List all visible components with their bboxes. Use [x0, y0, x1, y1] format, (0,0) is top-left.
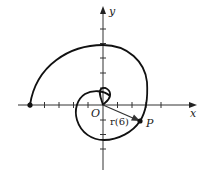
- curve-endpoint-dot: [27, 102, 32, 107]
- y-axis-label: y: [108, 5, 116, 18]
- point-p-label: P: [145, 117, 154, 130]
- x-axis: x: [18, 102, 197, 120]
- parametric-curve-diagram: x y P O r(6): [0, 0, 210, 175]
- point-p-dot: [137, 118, 142, 123]
- origin-label: O: [91, 107, 100, 120]
- x-axis-label: x: [190, 107, 197, 120]
- vector-label: r(6): [110, 116, 129, 127]
- parametric-curve: [30, 45, 147, 140]
- y-axis-arrow-icon: [100, 6, 106, 14]
